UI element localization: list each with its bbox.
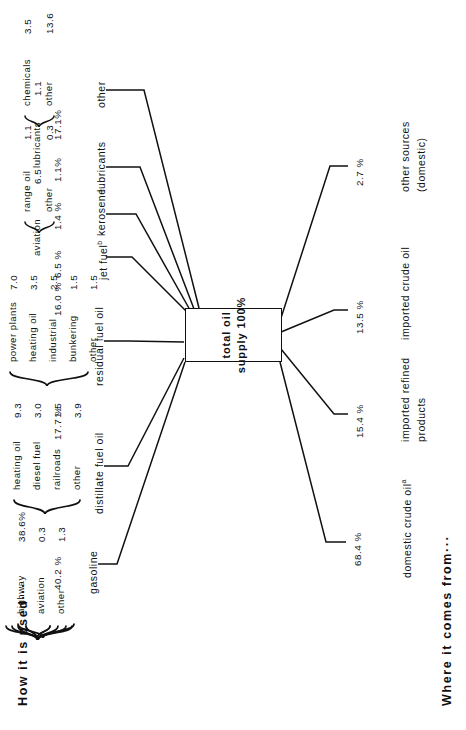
sub-label: chemicals [22,59,32,106]
sub-label: other [72,466,82,490]
sub-value: 0.3 [36,527,47,542]
sub-value: 2.5 [48,275,59,290]
sub-value: 1.5 [88,275,99,290]
sub-label: bunkering [68,315,78,362]
brace-icon [22,110,92,130]
sub-label: railroads [52,449,62,490]
sub-value: 1.1 [32,81,43,96]
sub-label: other [44,82,54,106]
sub-label: other [88,338,98,362]
oil-flow-diagram: total oil supply 100% Where it comes fro… [0,0,466,730]
sub-value: 9.3 [12,403,23,418]
sub-value: 6.5 [32,169,43,184]
brace-icon [22,216,92,236]
sub-value: 1.5 [68,275,79,290]
brace-icon [14,618,104,642]
sub-label: diesel fuel [32,441,42,490]
sub-label: power plants [8,302,18,362]
brace-icon [6,366,116,390]
sub-label: other [56,590,66,614]
sub-label: industrial [48,319,58,362]
sub-label: range oil [22,171,32,212]
sub-value: 3.0 [32,403,43,418]
sub-label: highway [16,575,26,614]
sub-value: 1.3 [56,527,67,542]
sub-value: 7.0 [8,275,19,290]
sub-value: 3.5 [28,275,39,290]
sub-value: 1.5 [52,403,63,418]
sub-value: 3.9 [72,403,83,418]
sub-label: heating oil [12,441,22,490]
sub-value: 3.5 [22,19,33,34]
sub-value: 13.6 [44,13,55,34]
sub-label: aviation [36,577,46,614]
brace-icon [10,494,110,518]
sub-label: other [44,188,54,212]
sub-label: heating oil [28,313,38,362]
